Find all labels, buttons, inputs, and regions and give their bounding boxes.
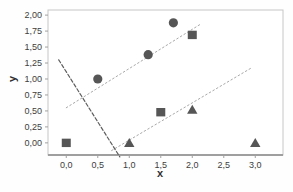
- x-axis-title: x: [150, 166, 170, 180]
- y-tick-label: 2,00: [24, 10, 42, 20]
- y-tick-label: 0,50: [24, 106, 42, 116]
- y-tick-label: 0,75: [24, 90, 42, 100]
- data-point-square: [156, 108, 165, 116]
- y-axis-title: y: [5, 71, 19, 87]
- data-point-square: [62, 139, 71, 147]
- x-tick-label: 2,0: [186, 160, 199, 170]
- plot-area: 2,001,751,501,251,000,750,500,250,000,00…: [0, 0, 293, 192]
- data-point-square: [188, 31, 197, 39]
- scatter-chart: 2,001,751,501,251,000,750,500,250,000,00…: [0, 0, 293, 192]
- y-tick-label: 0,25: [24, 122, 42, 132]
- x-tick-label: 0,5: [92, 160, 105, 170]
- data-point-circle: [144, 50, 153, 59]
- y-tick-label: 1,50: [24, 42, 42, 52]
- plot-frame: [48, 10, 283, 155]
- x-tick-label: 0,0: [60, 160, 73, 170]
- x-tick-label: 2,5: [218, 160, 231, 170]
- y-tick-label: 1,00: [24, 74, 42, 84]
- data-point-circle: [169, 18, 178, 27]
- y-tick-label: 0,00: [24, 138, 42, 148]
- x-tick-label: 1,0: [123, 160, 136, 170]
- y-tick-label: 1,25: [24, 58, 42, 68]
- y-tick-label: 1,75: [24, 26, 42, 36]
- x-tick-label: 3,0: [249, 160, 262, 170]
- data-point-circle: [93, 74, 102, 83]
